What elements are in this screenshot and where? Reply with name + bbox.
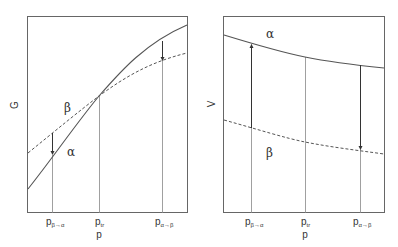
right-tick-p-beta-alpha: pβ→α	[245, 216, 264, 228]
right-panel-volume: α β V pβ→α ptr pα→β p	[206, 17, 385, 241]
right-alpha-curve	[224, 35, 384, 68]
right-y-axis-label: V	[206, 100, 217, 107]
right-x-axis-label: p	[302, 229, 308, 240]
diagram-canvas: β α G pβ→α ptr pα→β p α β V pβ→α ptr pα→…	[0, 0, 398, 247]
left-alpha-label: α	[67, 145, 75, 159]
left-tick-p-tr: ptr	[95, 216, 104, 228]
arrowhead-icon	[250, 44, 254, 48]
right-beta-label: β	[266, 146, 273, 160]
left-beta-label: β	[64, 101, 71, 115]
arrowhead-icon	[359, 146, 363, 150]
left-tick-p-beta-alpha: pβ→α	[46, 216, 65, 228]
left-y-axis-label: G	[9, 101, 20, 109]
left-plot-frame	[28, 17, 188, 213]
left-x-axis-label: p	[96, 229, 102, 240]
left-beta-curve	[28, 53, 187, 153]
right-tick-p-alpha-beta: pα→β	[353, 216, 372, 228]
right-tick-p-tr: ptr	[301, 216, 310, 228]
right-alpha-label: α	[266, 27, 274, 41]
left-tick-p-alpha-beta: pα→β	[155, 216, 174, 228]
left-panel-gibbs-energy: β α G pβ→α ptr pα→β p	[9, 17, 188, 241]
left-alpha-curve	[28, 25, 187, 189]
